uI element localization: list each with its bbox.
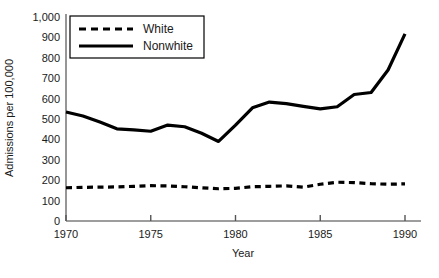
x-axis-title: Year — [232, 247, 255, 259]
y-tick-label: 700 — [42, 72, 60, 84]
chart-legend: White Nonwhite — [70, 16, 204, 58]
y-axis-title: Admissions per 100,000 — [3, 59, 15, 177]
y-tick-label: 300 — [42, 154, 60, 166]
y-tick-label: 200 — [42, 174, 60, 186]
line-chart: 19701975198019851990 0100200300400500600… — [0, 0, 439, 278]
y-tick-label: 900 — [42, 31, 60, 43]
x-tick-label: 1970 — [54, 228, 78, 240]
x-tick-label: 1980 — [223, 228, 247, 240]
legend-label-nonwhite: Nonwhite — [143, 39, 193, 53]
y-tick-label: 800 — [42, 52, 60, 64]
y-tick-label: 500 — [42, 113, 60, 125]
y-tick-label: 1,000 — [32, 11, 60, 23]
x-axis-tick-labels: 19701975198019851990 — [54, 228, 417, 240]
y-tick-label: 100 — [42, 195, 60, 207]
y-axis-tick-labels: 01002003004005006007008009001,000 — [32, 11, 60, 227]
x-tick-label: 1990 — [393, 228, 417, 240]
chart-container: 19701975198019851990 0100200300400500600… — [0, 0, 439, 278]
y-tick-label: 600 — [42, 93, 60, 105]
legend-label-white: White — [143, 22, 174, 36]
x-axis-ticks — [66, 215, 405, 221]
y-tick-label: 400 — [42, 133, 60, 145]
x-tick-label: 1975 — [139, 228, 163, 240]
x-tick-label: 1985 — [308, 228, 332, 240]
y-tick-label: 0 — [54, 215, 60, 227]
series-line-white — [66, 182, 405, 189]
